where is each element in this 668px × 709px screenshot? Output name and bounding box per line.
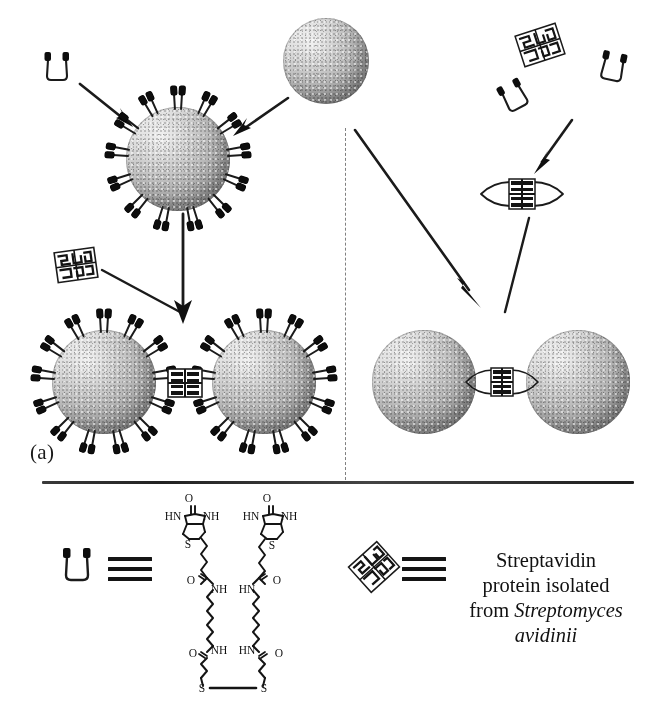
figure-canvas: (a): [0, 0, 668, 709]
biotin-ligand: [31, 377, 55, 380]
nanoparticle-product-right-a: [212, 330, 316, 434]
atom-disulfide-s-right: S: [261, 682, 267, 694]
atom-amide1-o-right: O: [273, 574, 281, 586]
atom-ureido-hn-right: HN: [243, 510, 260, 522]
atom-thiophene-s-right: S: [269, 539, 275, 551]
ligand-tip: [265, 309, 272, 318]
biotin-ligand: [90, 430, 96, 454]
biotin-ligand: [259, 309, 262, 333]
ligand-tip: [120, 442, 129, 453]
nanoparticle-biotinylated-top-a: [126, 107, 230, 211]
legend-from: from: [469, 599, 514, 621]
biotin-ligand: [226, 145, 250, 151]
legend-genus: Streptomyces: [514, 599, 623, 621]
ligand-tip: [106, 143, 116, 151]
panel-b: (b): [345, 0, 668, 487]
ligand-tip: [179, 86, 186, 95]
atom-amide2-o-left: O: [189, 647, 197, 659]
ligand-tip: [105, 309, 112, 318]
panel-label-a: (a): [30, 440, 54, 465]
biotin-streptavidin-bridge-b: [463, 360, 541, 404]
nanoparticle-product-right-b: [526, 330, 630, 434]
biotin-ligand: [99, 309, 102, 333]
biotin-icon-free-b1: [598, 50, 628, 84]
legend-equiv-biotin: [108, 557, 152, 581]
biotin-icon-free-b2: [499, 78, 533, 114]
atom-thiophene-s-left: S: [185, 538, 191, 550]
biotin-ligand: [32, 368, 56, 374]
legend-line-3: from Streptomyces: [430, 598, 662, 623]
arrow-long-diagonal-b: [353, 128, 493, 314]
ligand-tip: [105, 151, 114, 158]
legend-species: avidinii: [430, 623, 662, 648]
biotin-ligand: [272, 430, 278, 454]
atom-amide2-hn-right: HN: [239, 644, 256, 656]
ligand-tip: [248, 444, 256, 454]
nanoparticle-edge: [283, 18, 369, 104]
ligand-tip: [240, 143, 250, 151]
biotin-ligand: [313, 377, 337, 380]
ligand-stalk: [38, 377, 55, 380]
biotin-ligand: [250, 430, 256, 454]
biotin-ligand: [105, 154, 129, 157]
nanoparticle-product-left-a: [52, 330, 156, 434]
ligand-tip: [170, 86, 177, 95]
nanoparticle-edge: [372, 330, 476, 434]
biotin-ligand: [173, 86, 176, 110]
atom-carbonyl-o-right: O: [263, 492, 271, 504]
streptavidin-bridge-a: [160, 362, 210, 404]
biotin-ligand: [312, 368, 336, 374]
biotin-ligand: [112, 430, 118, 454]
nanoparticle-edge: [526, 330, 630, 434]
ligand-tip: [239, 442, 248, 453]
ligand-stalk: [173, 93, 176, 110]
atom-amide1-o-left: O: [187, 574, 195, 586]
legend-biotin-icon: [60, 545, 94, 585]
streptavidin-icon-free-b: [513, 22, 567, 68]
ligand-tip: [79, 442, 88, 453]
ligand-stalk: [259, 316, 262, 333]
atom-ureido-nh-right: NH: [281, 510, 298, 522]
legend-line-2: protein isolated: [430, 573, 662, 598]
ligand-tip: [31, 374, 40, 381]
atom-amide2-nh-left: NH: [211, 644, 228, 656]
ligand-tip: [321, 405, 332, 415]
atom-amide1-hn-right: HN: [239, 583, 256, 595]
ligand-tip: [161, 405, 172, 415]
legend-streptavidin-icon: [348, 543, 400, 591]
atom-ureido-hn-left: HN: [165, 510, 182, 522]
panel-divider-horizontal: [42, 481, 634, 484]
ligand-tip: [153, 219, 162, 230]
ligand-tip: [32, 366, 42, 374]
ligand-tip: [235, 182, 246, 192]
atom-carbonyl-o-left: O: [185, 492, 193, 504]
arrow-reaction-down-a: [168, 214, 198, 326]
ligand-tip: [272, 444, 280, 454]
biotin-ligand: [106, 145, 130, 151]
chemical-structure-biotin-disulfide: O HN NH S O NH O NH S O HN NH S O HN O H…: [155, 492, 355, 707]
atom-amide2-o-right: O: [275, 647, 283, 659]
arrow-complex-down-b: [485, 216, 545, 334]
nanoparticle-product-left-b: [372, 330, 476, 434]
ligand-tip: [242, 151, 251, 158]
ligand-tip: [112, 444, 120, 454]
nanoparticle-bare-top: [283, 18, 369, 104]
streptavidin-icon-free-a: [52, 245, 100, 285]
ligand-stalk: [99, 316, 102, 333]
arrow-biotin-to-particle-a: [78, 82, 142, 136]
ligand-tip: [256, 309, 263, 318]
biotin-ligand: [227, 154, 251, 157]
panel-divider-vertical: [345, 128, 346, 480]
ligand-tip: [280, 442, 289, 453]
ligand-stalk: [112, 154, 129, 157]
ligand-tip: [96, 309, 103, 318]
ligand-tip: [328, 374, 337, 381]
atom-ureido-nh-left: NH: [203, 510, 220, 522]
legend-streptavidin-text: Streptavidin protein isolated from Strep…: [430, 548, 662, 648]
biotin-icon-free-a: [42, 50, 72, 84]
atom-disulfide-s-left: S: [199, 682, 205, 694]
atom-amide1-nh-left: NH: [211, 583, 228, 595]
ligand-tip: [326, 366, 336, 374]
arrow-to-complex-b: [520, 118, 576, 180]
legend-line-1: Streptavidin: [430, 548, 662, 573]
